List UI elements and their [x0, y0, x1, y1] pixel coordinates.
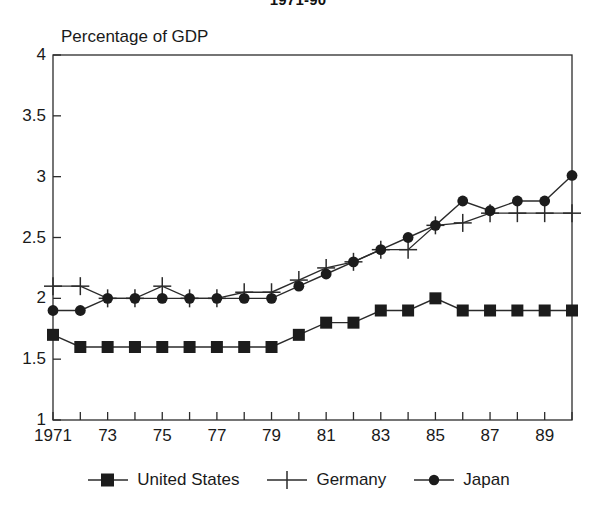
data-point — [511, 305, 523, 317]
data-point — [403, 232, 414, 243]
x-axis-tick-label: 73 — [98, 426, 117, 446]
chart-legend: United States Germany Japan — [0, 470, 596, 490]
data-point — [429, 292, 441, 304]
x-axis-tick-label: 1971 — [34, 426, 72, 446]
series-united-states — [47, 292, 578, 353]
data-point — [293, 281, 304, 292]
data-point — [157, 293, 168, 304]
plot-frame — [53, 55, 572, 420]
x-axis-tick-label: 81 — [317, 426, 336, 446]
data-point — [102, 293, 113, 304]
data-point — [293, 329, 305, 341]
data-point — [211, 341, 223, 353]
legend-label-germany: Germany — [316, 470, 386, 490]
data-point — [74, 341, 86, 353]
data-point — [485, 205, 496, 216]
data-point — [539, 196, 550, 207]
legend-item-united-states: United States — [86, 470, 239, 490]
legend-marker-circle-icon — [412, 471, 456, 489]
x-axis-tick-label: 87 — [481, 426, 500, 446]
legend-label-japan: Japan — [463, 470, 509, 490]
data-point — [457, 196, 468, 207]
legend-marker-square-icon — [86, 471, 130, 489]
data-point — [156, 341, 168, 353]
data-point — [266, 341, 278, 353]
data-point — [48, 305, 59, 316]
data-point — [266, 293, 277, 304]
series-germany — [44, 204, 581, 307]
x-axis-tick-label: 75 — [153, 426, 172, 446]
data-point — [484, 305, 496, 317]
data-point — [567, 170, 578, 181]
data-point — [239, 293, 250, 304]
data-point — [238, 341, 250, 353]
data-point — [347, 317, 359, 329]
chart-figure: 1971-90 Percentage of GDP 11.522.533.54 … — [0, 0, 596, 511]
data-point — [129, 341, 141, 353]
data-point — [130, 293, 141, 304]
data-point — [184, 293, 195, 304]
x-axis-tick-label: 77 — [207, 426, 226, 446]
data-point — [75, 305, 86, 316]
series-line — [53, 213, 572, 298]
chart-plot-area — [0, 0, 596, 511]
x-axis-tick-label: 83 — [371, 426, 390, 446]
data-point — [539, 305, 551, 317]
x-axis-tick-label: 89 — [535, 426, 554, 446]
data-point — [512, 196, 523, 207]
x-axis-tick-label: 85 — [426, 426, 445, 446]
series-japan — [48, 170, 578, 316]
x-axis-tick-label: 79 — [262, 426, 281, 446]
legend-label-united-states: United States — [137, 470, 239, 490]
data-point — [375, 244, 386, 255]
legend-item-japan: Japan — [412, 470, 509, 490]
series-line — [53, 175, 572, 310]
data-point — [102, 341, 114, 353]
data-point — [47, 329, 59, 341]
legend-marker-plus-icon — [265, 471, 309, 489]
data-point — [375, 305, 387, 317]
data-point — [430, 220, 441, 231]
legend-item-germany: Germany — [265, 470, 386, 490]
data-point — [566, 305, 578, 317]
data-point — [457, 305, 469, 317]
data-point — [211, 293, 222, 304]
data-point — [320, 317, 332, 329]
data-point — [402, 305, 414, 317]
data-point — [184, 341, 196, 353]
data-point — [321, 269, 332, 280]
data-point — [348, 256, 359, 267]
